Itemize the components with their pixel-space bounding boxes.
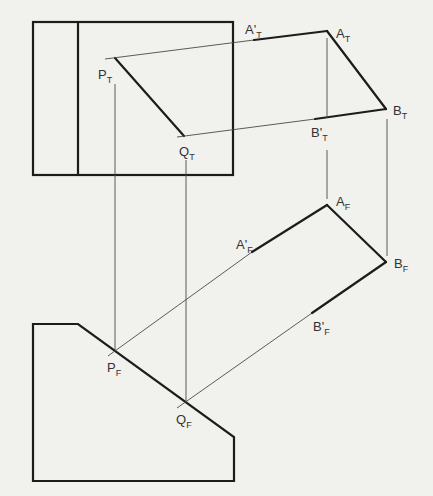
label-AF-prime: A'F [236, 237, 253, 255]
front-view [33, 205, 386, 481]
line-PT-AT [105, 40, 254, 59]
top-view-outline [33, 22, 233, 175]
edge-BTprime-BT [315, 109, 386, 119]
label-PT: PT [98, 67, 113, 85]
label-QF: QF [176, 412, 192, 430]
edge-AF-BF [327, 205, 386, 262]
edge-BFprime-BF [312, 262, 386, 313]
label-PF: PF [107, 360, 122, 378]
edge-ATprime-AT [254, 31, 327, 40]
label-AT-prime: A'T [245, 22, 262, 40]
line-PF-AF [108, 252, 252, 356]
orthographic-drawing: PT QT A'T AT BT B'T AF BF A'F B'F PF QF [0, 0, 433, 496]
label-BT-prime: B'T [311, 125, 328, 143]
label-BT: BT [393, 103, 408, 121]
labels: PT QT A'T AT BT B'T AF BF A'F B'F PF QF [98, 22, 409, 430]
projection-lines [115, 38, 387, 402]
label-BF-prime: B'F [313, 319, 330, 337]
line-QT-BT [177, 119, 315, 137]
label-QT: QT [179, 144, 195, 162]
top-view [33, 22, 386, 175]
label-AT: AT [336, 26, 351, 44]
edge-PT-QT [115, 58, 184, 136]
edge-AFprime-AF [252, 205, 327, 252]
line-QF-BF [177, 313, 312, 408]
edge-AT-BT [327, 31, 386, 109]
front-view-outline [33, 324, 234, 481]
label-AF: AF [336, 194, 351, 212]
label-BF: BF [394, 256, 409, 274]
